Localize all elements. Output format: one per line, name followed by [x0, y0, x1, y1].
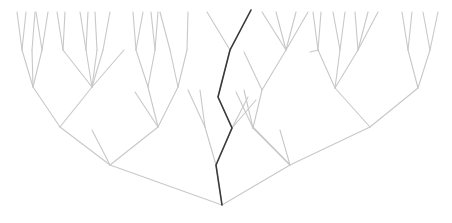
- tree-edge: [335, 50, 340, 88]
- tree-edge: [355, 12, 358, 50]
- tree-edge: [60, 87, 92, 127]
- tree-edge: [103, 12, 110, 50]
- tree-edge: [151, 12, 155, 50]
- tree-edge: [335, 50, 358, 88]
- tree-edge: [42, 12, 48, 50]
- tree-edge: [32, 50, 33, 87]
- tree-edge: [32, 12, 35, 50]
- tree-edge: [408, 12, 412, 50]
- tree-edge: [408, 50, 418, 88]
- tree-edge: [253, 90, 262, 128]
- tree-edge: [160, 12, 170, 50]
- tree-edge: [402, 12, 408, 50]
- tree-edge: [17, 12, 22, 50]
- tree-edge: [136, 50, 148, 87]
- tree-edge: [63, 50, 92, 87]
- tree-edge: [370, 88, 418, 127]
- tree-edge: [318, 50, 335, 88]
- tree-edge: [92, 130, 110, 165]
- tree-edge: [286, 12, 308, 50]
- tree-edge: [430, 12, 438, 50]
- tree-edge: [86, 12, 88, 50]
- tree-edge: [86, 50, 92, 87]
- tree-edge: [33, 87, 60, 127]
- tree-edge: [236, 92, 253, 128]
- tree-edge: [423, 12, 430, 50]
- tree-edge: [262, 12, 286, 50]
- tree-edge: [63, 12, 65, 50]
- tree-edge: [318, 12, 321, 50]
- tree-edge: [170, 50, 178, 87]
- tree-edge: [222, 165, 290, 205]
- tree-edge: [313, 12, 318, 50]
- tree-edge: [310, 50, 318, 52]
- tree-edge: [22, 50, 33, 87]
- tree-edge: [358, 12, 368, 50]
- tree-edge: [244, 52, 262, 90]
- tree-edge: [60, 127, 110, 165]
- tree-edge: [335, 88, 370, 127]
- tree-diagram: [0, 0, 452, 223]
- tree-edge: [110, 165, 222, 205]
- tree-edge: [262, 50, 286, 90]
- tree-edges: [17, 10, 438, 205]
- tree-edge: [205, 127, 216, 165]
- tree-edge: [276, 12, 286, 50]
- tree-edge: [207, 12, 230, 50]
- tree-edge: [133, 12, 136, 50]
- tree-edge: [158, 87, 178, 127]
- tree-edge: [333, 12, 340, 50]
- tree-edge: [418, 50, 430, 88]
- tree-edge: [135, 92, 158, 127]
- tree-edge: [136, 12, 143, 50]
- highlighted-path: [216, 10, 251, 205]
- tree-edge: [358, 12, 378, 50]
- tree-edge: [22, 12, 26, 50]
- tree-edge: [340, 12, 345, 50]
- tree-edge: [36, 12, 42, 50]
- tree-edge: [187, 12, 188, 50]
- tree-edge: [244, 90, 253, 128]
- tree-edge: [155, 12, 158, 50]
- tree-edge: [57, 12, 63, 50]
- tree-edge: [95, 12, 97, 50]
- tree-edge: [148, 87, 158, 127]
- tree-edge: [148, 50, 155, 87]
- tree-edge: [286, 12, 296, 50]
- tree-edge: [80, 12, 86, 50]
- tree-edge: [110, 127, 158, 165]
- tree-edge: [290, 127, 370, 165]
- tree-edge: [33, 50, 42, 87]
- tree-edge: [178, 50, 187, 87]
